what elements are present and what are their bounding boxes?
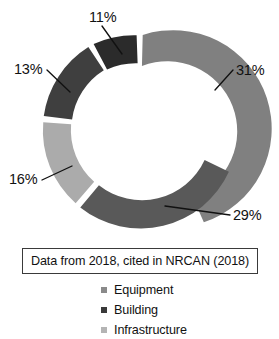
legend-item-infrastructure[interactable]: Infrastructure [0, 320, 279, 339]
legend-item-equipment[interactable]: Equipment [0, 280, 279, 300]
chart-legend: Equipment Building Infrastructure [0, 280, 279, 339]
source-note-box: Data from 2018, cited in NRCAN (2018) [22, 248, 258, 274]
slice-label-16: 16% [9, 172, 37, 187]
donut-slice-16 [43, 122, 94, 203]
legend-swatch-icon [101, 327, 107, 333]
slice-label-29: 29% [233, 208, 261, 223]
donut-chart: 11% 31% 13% 16% 29% [0, 0, 279, 245]
legend-item-label: Building [114, 304, 158, 317]
legend-item-label: Infrastructure [114, 324, 187, 337]
legend-item-building[interactable]: Building [0, 300, 279, 320]
source-note-text: Data from 2018, cited in NRCAN (2018) [31, 254, 249, 268]
legend-swatch-icon [101, 307, 107, 313]
legend-item-label: Equipment [114, 284, 173, 297]
slice-label-31: 31% [236, 63, 264, 78]
legend-swatch-icon [101, 287, 107, 293]
donut-slice-13 [44, 47, 104, 119]
donut-slices [43, 30, 272, 228]
donut-slice-11 [94, 35, 138, 69]
slice-label-11: 11% [89, 10, 116, 25]
slice-label-13: 13% [14, 62, 42, 77]
